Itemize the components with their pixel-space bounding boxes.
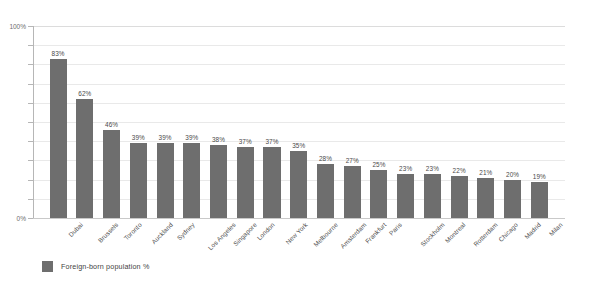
bar[interactable] [317,164,334,218]
bar-value-label: 19% [533,173,546,180]
bar-value-label: 46% [105,121,118,128]
bar-slot: 39% [130,26,147,218]
bar-slot: 46% [103,26,120,218]
category-label: Sydney [175,221,195,241]
bar[interactable] [183,143,200,218]
y-axis-tick [28,218,33,219]
bar[interactable] [130,143,147,218]
bar[interactable] [76,99,93,218]
category-label: Stockholm [419,221,446,248]
bar-slot: 83% [50,26,67,218]
bar-value-label: 38% [212,136,225,143]
bar-slot: 39% [183,26,200,218]
bar-value-label: 23% [426,165,439,172]
category-label: Montreal [444,221,467,244]
bar-slot: 22% [451,26,468,218]
bar[interactable] [103,130,120,218]
y-axis-max-label: 100% [0,23,26,30]
legend-label: Foreign-born population % [61,262,149,271]
bar-slot: 28% [317,26,334,218]
bar-value-label: 39% [185,134,198,141]
category-label: Frankfurt [364,221,388,245]
bar-slot: 21% [477,26,494,218]
bar[interactable] [50,59,67,218]
bar[interactable] [237,147,254,218]
bar-value-label: 39% [159,134,172,141]
bar-value-label: 21% [479,169,492,176]
bar-slot: 23% [424,26,441,218]
category-label: Amsterdam [339,221,368,250]
bar-slot: 27% [344,26,361,218]
bar[interactable] [477,178,494,218]
bar-slot: 35% [290,26,307,218]
category-label: Paris [387,221,403,237]
category-label: Los Angeles [206,221,236,251]
bar-slot: 37% [263,26,280,218]
chart-legend: Foreign-born population % [42,261,149,272]
bar[interactable] [290,151,307,218]
bar[interactable] [504,180,521,218]
category-label: Chicago [497,221,519,243]
bar-value-label: 37% [239,138,252,145]
bar-slot: 23% [397,26,414,218]
bar[interactable] [531,182,548,218]
bar-chart: 100% 0% 83%62%46%39%39%39%38%37%37%35%28… [0,0,596,284]
bar[interactable] [370,170,387,218]
bar-slot: 25% [370,26,387,218]
bar-value-label: 25% [372,161,385,168]
y-axis-min-label: 0% [0,215,26,222]
category-label: Milan [548,221,564,237]
bar[interactable] [451,176,468,218]
bar[interactable] [424,174,441,218]
bar[interactable] [263,147,280,218]
bar-value-label: 20% [506,171,519,178]
bar-value-label: 28% [319,155,332,162]
category-label: Rotterdam [472,221,499,248]
bar-slot: 19% [531,26,548,218]
category-label: Madrid [522,221,541,240]
x-axis-baseline [33,218,565,219]
bar[interactable] [397,174,414,218]
bar-value-label: 83% [52,50,65,57]
bar-value-label: 35% [292,142,305,149]
category-label: Toronto [122,221,143,242]
legend-swatch-icon [42,261,53,272]
category-label: Dubai [67,221,84,238]
bar[interactable] [157,143,174,218]
category-label: New York [284,221,309,246]
bar-value-label: 62% [78,90,91,97]
bar-slot: 62% [76,26,93,218]
bars-layer: 83%62%46%39%39%39%38%37%37%35%28%27%25%2… [33,26,565,218]
bar-value-label: 39% [132,134,145,141]
bar[interactable] [210,145,227,218]
bar[interactable] [344,166,361,218]
bar-slot: 38% [210,26,227,218]
bar-value-label: 37% [265,138,278,145]
bar-slot: 39% [157,26,174,218]
category-label: London [256,221,276,241]
bar-value-label: 27% [346,157,359,164]
category-label: Brussels [96,221,119,244]
category-label: Melbourne [312,221,339,248]
category-labels: DubaiBrusselsTorontoAucklandSydneyLos An… [33,221,565,261]
category-label: Auckland [150,221,174,245]
bar-slot: 37% [237,26,254,218]
bar-value-label: 23% [399,165,412,172]
bar-slot: 20% [504,26,521,218]
bar-value-label: 22% [453,167,466,174]
